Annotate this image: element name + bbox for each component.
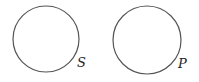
label-p: P — [177, 56, 187, 71]
circle-s — [13, 6, 79, 72]
label-s: S — [77, 55, 86, 70]
circle-p — [113, 6, 181, 74]
diagram-canvas: S P — [0, 0, 199, 82]
